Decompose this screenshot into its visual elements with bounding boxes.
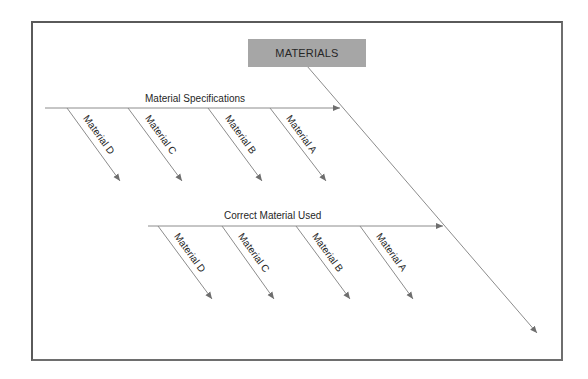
- effect-head-box: MATERIALS: [248, 39, 366, 67]
- branch-1-label: Material Specifications: [145, 93, 245, 104]
- branch-2-label: Correct Material Used: [224, 210, 321, 221]
- effect-head-label: MATERIALS: [275, 47, 338, 59]
- main-spine-arrow: [307, 66, 537, 333]
